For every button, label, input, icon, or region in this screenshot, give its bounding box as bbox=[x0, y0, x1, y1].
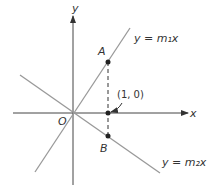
diagram-canvas: y x O A (1, 0) B y = m₁x y = m₂x bbox=[0, 0, 211, 190]
line-m1-label: y = m₁x bbox=[133, 32, 179, 45]
point-1-0 bbox=[106, 111, 111, 116]
point-1-0-label: (1, 0) bbox=[117, 89, 144, 100]
y-axis-label: y bbox=[71, 2, 79, 15]
line-m1 bbox=[35, 28, 130, 172]
line-m2-label: y = m₂x bbox=[161, 156, 207, 169]
origin-label: O bbox=[58, 115, 67, 128]
point-b-label: B bbox=[100, 142, 108, 155]
pointer-arrow bbox=[111, 103, 122, 112]
point-a bbox=[106, 60, 111, 65]
point-a-label: A bbox=[97, 45, 106, 58]
x-axis-label: x bbox=[189, 107, 197, 120]
point-b bbox=[106, 134, 111, 139]
